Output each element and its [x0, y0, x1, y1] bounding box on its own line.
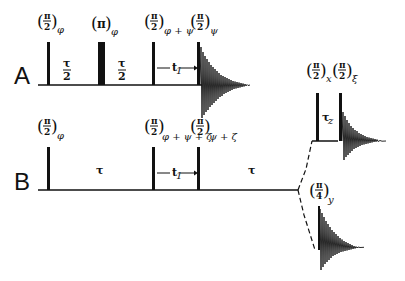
- row-a-fid-signal: [200, 47, 250, 118]
- svg-text:(: (: [144, 11, 151, 31]
- row-b-t1-interval: t 1: [157, 166, 198, 181]
- svg-text:2: 2: [44, 22, 50, 32]
- row-b-pulse-1-label: ( π 2 ) φ: [37, 116, 64, 141]
- row-a-pulse-3: [152, 42, 155, 85]
- svg-text:π: π: [313, 60, 320, 70]
- svg-text:2: 2: [63, 70, 71, 83]
- row-a-pulse-1-label: ( π 2 ) φ: [37, 11, 64, 35]
- svg-text:τ: τ: [63, 57, 70, 70]
- svg-text:2: 2: [151, 22, 157, 32]
- svg-text:(: (: [190, 11, 197, 31]
- svg-text:π: π: [197, 11, 204, 21]
- row-a-pulse-3-label: ( π 2 ) φ + ψ: [144, 11, 194, 36]
- svg-text:(: (: [144, 116, 151, 136]
- svg-text:2: 2: [197, 127, 203, 137]
- row-b-interval-tau-1: τ: [96, 164, 103, 177]
- row-a-pulse-1: [47, 42, 50, 85]
- svg-text:π: π: [197, 116, 204, 126]
- svg-text:z: z: [327, 115, 334, 126]
- row-a-pulse-2: [98, 42, 105, 85]
- row-b-pulse-2: [152, 147, 155, 190]
- row-b-pulse-1: [47, 147, 50, 190]
- branch-upper-pulse-xi: [339, 93, 342, 141]
- svg-text:2: 2: [339, 71, 345, 81]
- row-a-interval-1: τ 2: [63, 57, 71, 83]
- svg-text:(: (: [309, 180, 316, 200]
- svg-text:π: π: [339, 60, 346, 70]
- pulse-sequence-diagram: A ( π 2 ) φ τ 2 ( π ) φ τ 2 ( π 2 ) φ + …: [0, 0, 405, 281]
- svg-text:4: 4: [316, 191, 322, 201]
- svg-text:φ: φ: [111, 26, 118, 37]
- row-b-interval-tau-2: τ: [248, 164, 255, 177]
- branch-lower-fid-signal: [319, 209, 364, 270]
- svg-text:(: (: [332, 60, 339, 80]
- branch-upper-pulse-x: [316, 93, 319, 141]
- svg-text:(: (: [37, 116, 44, 136]
- svg-text:ξ: ξ: [352, 73, 358, 84]
- svg-text:1: 1: [176, 170, 182, 181]
- row-label-a: A: [14, 62, 30, 89]
- svg-text:2: 2: [197, 22, 203, 32]
- row-a-t1-interval: t 1: [157, 61, 198, 76]
- row-a-interval-2: τ 2: [118, 57, 126, 83]
- branch-upper-tau-z: τ z: [322, 111, 334, 126]
- branch-upper-pulse-x-label: ( π 2 ) x: [306, 60, 332, 84]
- svg-text:2: 2: [313, 71, 319, 81]
- svg-text:1: 1: [176, 65, 182, 76]
- svg-text:y: y: [327, 194, 334, 205]
- svg-text:2: 2: [44, 127, 50, 137]
- branch-upper-fid-signal: [342, 112, 386, 160]
- branch-upper-pulse-xi-label: ( π 2 ) ξ: [332, 60, 358, 84]
- svg-text:φ: φ: [57, 24, 64, 35]
- svg-text:ψ: ψ: [210, 25, 218, 36]
- svg-text:τ: τ: [118, 57, 125, 70]
- row-b-pulse-3: [197, 147, 200, 190]
- svg-text:π: π: [44, 116, 51, 126]
- svg-text:2: 2: [151, 127, 157, 137]
- svg-text:π: π: [151, 116, 158, 126]
- svg-text:ψ + ζ: ψ + ζ: [209, 131, 238, 142]
- svg-text:π: π: [44, 11, 51, 21]
- svg-text:(: (: [37, 11, 44, 31]
- svg-text:(: (: [306, 60, 313, 80]
- svg-text:2: 2: [118, 70, 126, 83]
- branch-lower-pulse-y-label: ( π 4 ) y: [309, 180, 334, 205]
- svg-text:π: π: [151, 11, 158, 21]
- row-a-pulse-4: [197, 42, 200, 85]
- svg-text:φ: φ: [57, 130, 64, 141]
- row-a-pulse-4-label: ( π 2 ) ψ: [190, 11, 218, 36]
- svg-text:(: (: [190, 116, 197, 136]
- svg-text:π: π: [316, 180, 323, 190]
- row-a-pulse-2-label: ( π ) φ: [91, 13, 118, 37]
- row-label-b: B: [14, 168, 30, 195]
